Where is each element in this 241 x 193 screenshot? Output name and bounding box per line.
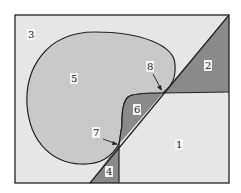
svg-text:8: 8 [147,61,153,72]
label-1: 1 [175,139,183,150]
svg-text:4: 4 [106,166,112,177]
label-7: 7 [92,127,100,138]
region-diagram: 1 2 3 4 5 6 7 8 [0,0,241,193]
label-6: 6 [133,104,141,115]
label-2: 2 [204,60,212,71]
svg-text:7: 7 [93,127,99,138]
svg-text:2: 2 [205,60,211,71]
label-4: 4 [105,166,113,177]
svg-text:1: 1 [176,139,182,150]
label-3: 3 [27,29,35,40]
svg-text:3: 3 [28,29,34,40]
label-5: 5 [70,73,78,84]
label-8: 8 [146,61,154,72]
svg-text:5: 5 [71,73,77,84]
svg-text:6: 6 [134,104,140,115]
